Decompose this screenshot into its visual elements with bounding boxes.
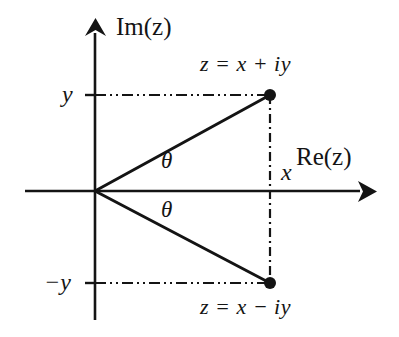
point-marker-z-conjugate [264, 277, 276, 289]
tick-label-y-positive: y [62, 82, 73, 106]
right-arrow-icon [358, 181, 377, 202]
tick-label-y-negative: −y [44, 270, 71, 294]
vector-to-z-conjugate [95, 191, 270, 283]
tick-label-x: x [281, 160, 292, 184]
argand-diagram-figure: Im(z) Re(z) y −y x z = x + iy z = x − iy… [0, 0, 399, 337]
angle-label-theta-lower: θ [161, 198, 172, 221]
imaginary-axis-label: Im(z) [116, 14, 172, 39]
point-label-z-conjugate: z = x − iy [200, 296, 291, 318]
real-axis-label: Re(z) [296, 144, 352, 169]
angle-label-theta-upper: θ [161, 149, 172, 172]
point-label-z: z = x + iy [200, 53, 291, 75]
point-marker-z [264, 89, 276, 101]
vector-to-z [95, 95, 270, 191]
